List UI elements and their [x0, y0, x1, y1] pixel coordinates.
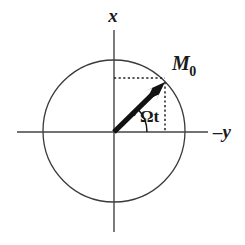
- vector-diagram-canvas: x –y Ωt M 0: [0, 0, 245, 245]
- magnetization-vector-subscript: 0: [189, 64, 196, 79]
- omega-t-label: Ωt: [140, 107, 160, 126]
- figure-container: x –y Ωt M 0: [0, 0, 245, 245]
- x-axis-label: x: [107, 5, 118, 26]
- magnetization-vector-label-group: M 0: [171, 52, 196, 79]
- minus-y-axis-label: –y: [212, 121, 232, 142]
- magnetization-vector-label: M: [171, 52, 191, 74]
